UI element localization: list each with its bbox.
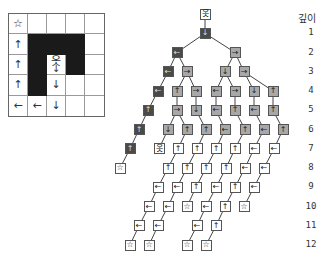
depth-label: 11 xyxy=(300,220,322,230)
tree-node: ← xyxy=(211,105,222,116)
star-icon: ☆ xyxy=(126,241,133,249)
arrow-left-icon: ← xyxy=(271,145,278,153)
tree-node: ← xyxy=(153,86,164,97)
star-icon: ☆ xyxy=(183,203,190,211)
arrow-left-icon: ← xyxy=(242,164,249,172)
tree-node: 옷 xyxy=(154,143,165,154)
arrow-up-icon: ↑ xyxy=(127,145,134,153)
star-icon: ☆ xyxy=(145,241,152,249)
tree-node: ↑ xyxy=(182,124,193,135)
arrow-left-icon: ← xyxy=(146,203,153,211)
arrow-up-icon: ↑ xyxy=(194,145,201,153)
arrow-left-icon: ← xyxy=(155,87,162,95)
tree-node: ↓ xyxy=(249,86,260,97)
tree-node: ← xyxy=(192,220,203,231)
tree-node: ← xyxy=(201,201,212,212)
tree-node: ← xyxy=(220,124,231,135)
arrow-left-icon: ← xyxy=(251,183,258,191)
tree-node: ↓ xyxy=(191,105,202,116)
tree-node: ↑ xyxy=(230,143,241,154)
tree-node: ← xyxy=(153,182,164,193)
arrow-left-icon: ← xyxy=(155,183,162,191)
tree-node: ← xyxy=(249,105,260,116)
arrow-up-icon: ↑ xyxy=(223,164,230,172)
arrow-left-icon: ← xyxy=(222,126,229,134)
arrow-up-icon: ↑ xyxy=(242,126,249,134)
arrow-right-icon: → xyxy=(184,68,191,76)
tree-node: → xyxy=(172,105,183,116)
tree-node: ← xyxy=(269,143,280,154)
tree-node: → xyxy=(230,47,241,58)
arrow-up-icon: ↑ xyxy=(184,164,191,172)
arrow-right-icon: → xyxy=(241,68,248,76)
arrow-left-icon: ← xyxy=(174,183,181,191)
depth-label: 3 xyxy=(300,66,322,76)
star-icon: ☆ xyxy=(183,241,190,249)
star-icon: ☆ xyxy=(116,164,123,172)
arrow-left-icon: ← xyxy=(251,145,258,153)
arrow-left-icon: ← xyxy=(213,183,220,191)
tree-node: ↑ xyxy=(221,163,232,174)
tree-node: ☆ xyxy=(182,240,193,251)
tree-node: ↓ xyxy=(220,66,231,77)
arrow-left-icon: ← xyxy=(203,203,210,211)
arrow-up-icon: ↑ xyxy=(145,106,152,114)
tree-node: ← xyxy=(153,220,164,231)
tree-node: ← xyxy=(259,163,270,174)
arrow-right-icon: → xyxy=(232,87,239,95)
tree-node: ↑ xyxy=(278,124,289,135)
arrow-left-icon: ← xyxy=(261,126,268,134)
tree-node: ↑ xyxy=(172,86,183,97)
tree-node: ← xyxy=(249,182,260,193)
tree-node: → xyxy=(239,66,250,77)
tree-node: ↑ xyxy=(211,220,222,231)
tree-node: ☆ xyxy=(182,201,193,212)
arrow-left-icon: ← xyxy=(261,164,268,172)
arrow-right-icon: → xyxy=(232,49,239,57)
arrow-left-icon: ← xyxy=(155,222,162,230)
depth-label: 7 xyxy=(300,143,322,153)
tree-node: ↑ xyxy=(192,143,203,154)
tree-node: ☆ xyxy=(115,163,126,174)
tree-node: ↑ xyxy=(125,143,136,154)
tree-node: ↑ xyxy=(211,143,222,154)
arrow-up-icon: ↑ xyxy=(213,145,220,153)
arrow-up-icon: ↑ xyxy=(136,126,143,134)
arrow-left-icon: ← xyxy=(174,49,181,57)
tree-node: ← xyxy=(259,124,270,135)
tree-node: ← xyxy=(211,182,222,193)
tree-node: → xyxy=(191,86,202,97)
arrow-up-icon: ↑ xyxy=(280,126,287,134)
arrow-up-icon: ↑ xyxy=(222,203,229,211)
tree-node: ← xyxy=(211,86,222,97)
depth-label: 8 xyxy=(300,162,322,172)
arrow-right-icon: → xyxy=(174,106,181,114)
arrow-up-icon: ↑ xyxy=(232,183,239,191)
tree-node: ↑ xyxy=(173,143,184,154)
tree-node: ← xyxy=(240,163,251,174)
tree-node: ↑ xyxy=(240,124,251,135)
tree-node: ↑ xyxy=(268,105,279,116)
tree-node: ☆ xyxy=(144,240,155,251)
depth-axis-title: 깊이 xyxy=(298,10,316,25)
depth-label: 1 xyxy=(300,27,322,37)
tree-node: ← xyxy=(172,47,183,58)
depth-label: 4 xyxy=(300,85,322,95)
arrow-left-icon: ← xyxy=(165,68,172,76)
star-icon: ☆ xyxy=(240,203,247,211)
arrow-left-icon: ← xyxy=(251,106,258,114)
tree-node: ↑ xyxy=(143,105,154,116)
arrow-up-icon: ↑ xyxy=(203,126,210,134)
arrow-left-icon: ← xyxy=(213,106,220,114)
tree-node: ↑ xyxy=(191,182,202,193)
depth-label: 9 xyxy=(300,181,322,191)
arrow-up-icon: ↑ xyxy=(203,164,210,172)
tree-node: ← xyxy=(134,220,145,231)
person-icon: 옷 xyxy=(202,10,209,18)
tree-node: ↓ xyxy=(163,124,174,135)
depth-label: 6 xyxy=(300,124,322,134)
arrow-up-icon: ↑ xyxy=(232,145,239,153)
tree-node: ☆ xyxy=(125,240,136,251)
arrow-left-icon: ← xyxy=(136,222,143,230)
tree-node: ← xyxy=(163,201,174,212)
